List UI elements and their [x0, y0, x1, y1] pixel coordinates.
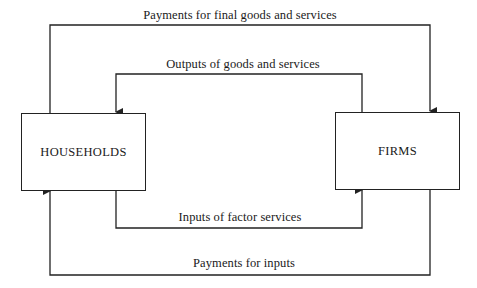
label-inputs-factor: Inputs of factor services: [179, 210, 302, 225]
label-outputs-goods: Outputs of goods and services: [166, 57, 320, 72]
flow-outputs-goods: [116, 74, 362, 112]
label-payments-inputs: Payments for inputs: [193, 256, 295, 271]
households-box: HOUSEHOLDS: [21, 113, 146, 191]
firms-box: FIRMS: [335, 112, 460, 190]
households-label: HOUSEHOLDS: [40, 145, 126, 160]
label-payments-final-goods: Payments for final goods and services: [143, 8, 337, 23]
firms-label: FIRMS: [378, 144, 417, 159]
